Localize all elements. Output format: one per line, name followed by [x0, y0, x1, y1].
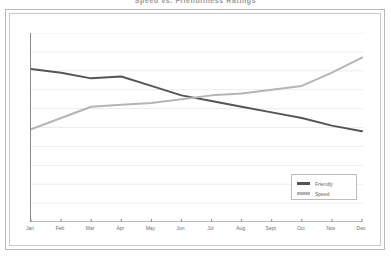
x-axis: JanFebMarAprMayJunJulAugSeptOctNovDec [30, 224, 362, 236]
x-axis-label: Dec [346, 224, 376, 232]
series-line-friendly [31, 69, 362, 131]
legend-label-friendly: Friendly [315, 181, 333, 187]
legend-swatch-speed [297, 192, 310, 195]
chart-title: Speed vs. Friendliness Ratings [0, 0, 391, 5]
legend-label-speed: Speed [315, 191, 329, 197]
chart-container: Speed vs. Friendliness Ratings JanFebMar… [0, 0, 391, 257]
x-axis-label: Aug [226, 224, 256, 232]
x-axis-label: Nov [316, 224, 346, 232]
x-axis-label: Jan [15, 224, 45, 232]
x-axis-label: Mar [75, 224, 105, 232]
data-series-group [31, 58, 362, 132]
x-axis-label: Oct [286, 224, 316, 232]
chart-legend: Friendly Speed [291, 174, 357, 200]
legend-item-speed: Speed [297, 189, 356, 198]
x-axis-label: Jun [165, 224, 195, 232]
legend-swatch-friendly [297, 182, 310, 185]
series-line-speed [31, 58, 362, 130]
legend-item-friendly: Friendly [297, 179, 356, 188]
x-axis-label: Sept [256, 224, 286, 232]
x-axis-label: Feb [45, 224, 75, 232]
x-axis-label: May [135, 224, 165, 232]
x-axis-label: Jul [196, 224, 226, 232]
x-axis-label: Apr [105, 224, 135, 232]
